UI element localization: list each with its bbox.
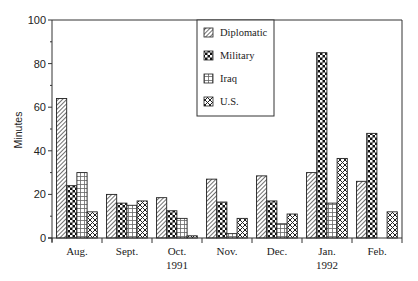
bar-diplomatic: [57, 98, 67, 238]
bar-iraq: [227, 234, 237, 238]
y-tick-label: 40: [34, 145, 46, 157]
bar-military: [267, 201, 277, 238]
x-tick-label: Feb.: [367, 245, 387, 257]
x-axis: Aug.Sept.Oct.Nov.Dec.Jan.Feb.19911992: [52, 238, 402, 271]
bar-military: [67, 186, 77, 238]
bar-iraq: [327, 203, 337, 238]
y-axis-title: Minutes: [12, 112, 24, 149]
bar-us: [337, 158, 347, 238]
bar-military: [367, 133, 377, 238]
bar-iraq: [177, 218, 187, 238]
bar-military: [217, 202, 227, 238]
legend-swatch-icon: [204, 28, 213, 37]
bar-us: [237, 218, 247, 238]
legend-label: Diplomatic: [220, 27, 268, 38]
bar-diplomatic: [157, 198, 167, 238]
bar-diplomatic: [357, 181, 367, 238]
bar-chart: 020406080100 Aug.Sept.Oct.Nov.Dec.Jan.Fe…: [0, 0, 418, 281]
bar-us: [287, 214, 297, 238]
year-label: 1991: [166, 259, 188, 271]
bar-diplomatic: [107, 194, 117, 238]
x-tick-label: Jan.: [318, 245, 336, 257]
bar-us: [137, 201, 147, 238]
x-tick-label: Oct.: [168, 245, 187, 257]
year-label: 1992: [316, 259, 338, 271]
legend: DiplomaticMilitaryIraqU.S.: [197, 20, 274, 116]
bar-iraq: [77, 173, 87, 238]
y-tick-label: 60: [34, 101, 46, 113]
bar-us: [387, 212, 397, 238]
legend-swatch-icon: [204, 97, 213, 106]
bar-diplomatic: [307, 173, 317, 238]
bar-diplomatic: [257, 176, 267, 238]
legend-label: Iraq: [220, 73, 238, 84]
y-tick-label: 20: [34, 188, 46, 200]
x-tick-label: Sept.: [116, 245, 139, 257]
y-axis: 020406080100: [28, 14, 52, 244]
bar-iraq: [127, 205, 137, 238]
legend-swatch-icon: [204, 51, 213, 60]
bar-military: [317, 53, 327, 238]
x-tick-label: Aug.: [66, 245, 88, 257]
bar-military: [167, 211, 177, 238]
y-tick-label: 0: [40, 232, 46, 244]
bar-military: [117, 203, 127, 238]
bar-diplomatic: [207, 179, 217, 238]
bar-us: [87, 212, 97, 238]
legend-label: U.S.: [220, 96, 239, 107]
x-tick-label: Dec.: [267, 245, 288, 257]
y-tick-label: 80: [34, 58, 46, 70]
x-tick-label: Nov.: [217, 245, 238, 257]
bar-iraq: [277, 224, 287, 238]
y-tick-label: 100: [28, 14, 46, 26]
legend-label: Military: [220, 50, 255, 61]
legend-swatch-icon: [204, 74, 213, 83]
